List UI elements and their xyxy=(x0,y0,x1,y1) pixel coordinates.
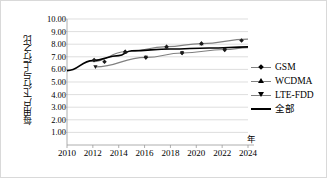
legend-marker xyxy=(258,78,264,83)
legend-label: GSM xyxy=(272,62,296,73)
legend-item-lte-fdd[interactable]: LTE-FDD xyxy=(250,88,327,102)
legend-line xyxy=(251,108,271,110)
legend-label: 全部 xyxy=(272,104,295,115)
diamond-marker xyxy=(250,61,272,73)
triangle-down-marker xyxy=(250,89,272,101)
x-axis-tick-labels: 20102012201420162018202020222024 xyxy=(1,149,327,163)
legend-label: LTE-FDD xyxy=(272,90,314,101)
legend-label: WCDMA xyxy=(272,76,312,87)
x-axis-title: 年 xyxy=(247,132,256,144)
legend-item-wcdma[interactable]: WCDMA xyxy=(250,74,327,88)
solid-line-marker xyxy=(250,103,272,115)
data-point-gsm xyxy=(102,60,107,65)
chart-legend: GSMWCDMALTE-FDD全部 xyxy=(250,60,327,116)
legend-item-全部[interactable]: 全部 xyxy=(250,102,327,116)
legend-marker xyxy=(258,92,264,97)
triangle-up-marker xyxy=(250,75,272,87)
legend-item-gsm[interactable]: GSM xyxy=(250,60,327,74)
legend-marker xyxy=(258,64,264,70)
x-tick-label: 2024 xyxy=(228,149,268,158)
chart-frame: 每用户下行与上行之比 1.002.003.004.005.006.007.008… xyxy=(0,0,327,178)
